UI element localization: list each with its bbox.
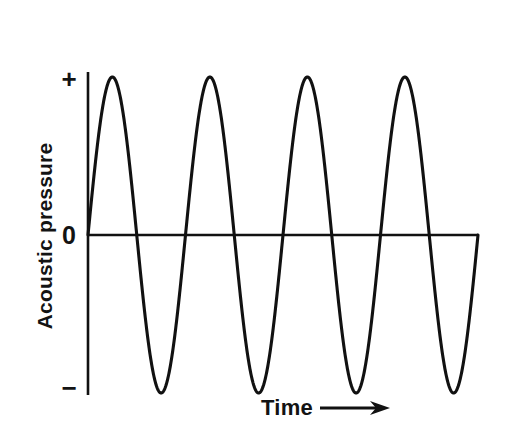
arrow-right-icon (320, 396, 392, 420)
y-tick-zero: 0 (58, 220, 80, 250)
y-tick-positive: + (58, 66, 80, 92)
x-axis-title: Time (261, 395, 313, 421)
y-tick-negative: − (58, 373, 80, 403)
acoustic-pressure-waveform-figure: Acoustic pressure + 0 − Time (0, 0, 505, 426)
y-axis-title: Acoustic pressure (33, 143, 57, 330)
